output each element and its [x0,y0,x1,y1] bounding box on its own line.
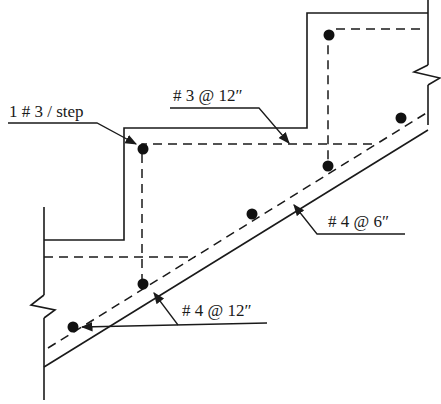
leader-step-bar [8,123,136,144]
bar-sections [68,30,407,333]
break-symbol-left [31,295,55,318]
leader-transverse [170,108,289,143]
label-transverse: # 3 @ 12″ [173,86,243,105]
label-main-bottom: # 4 @ 6″ [328,212,389,231]
bar-dot [396,113,407,124]
bar-dot [247,209,258,220]
bar-dot [323,161,334,172]
bar-dot [138,144,149,155]
bar-dot [138,279,149,290]
stair-reinforcement-diagram: 1 # 3 / step # 3 @ 12″ # 4 @ 6″ # 4 @ 12… [0,0,441,404]
label-landing-bar: # 4 @ 12″ [182,301,252,320]
concrete-outline [31,0,440,400]
break-symbol-right [414,65,440,85]
leader-landing-up [154,293,178,325]
label-step-bar: 1 # 3 / step [9,102,84,121]
leader-landing-left [82,323,267,327]
bar-dot [324,30,335,41]
bar-dot [68,322,79,333]
